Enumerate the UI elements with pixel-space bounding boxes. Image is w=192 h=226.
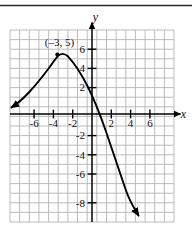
y-tick-label-pos2: 2: [80, 81, 86, 93]
x-tick-label-pos2: 2: [109, 117, 115, 129]
vertex-point-marker: [55, 53, 59, 57]
x-tick-label-neg4: -4: [49, 117, 59, 129]
y-tick-label-neg8: -8: [76, 197, 86, 209]
y-tick-label-neg6: -6: [76, 168, 86, 180]
coordinate-plane-graph: -6 -4 -2 2 4 6 6 4 2 -2 -4 -6 -8 x y (–3…: [0, 0, 192, 226]
vertex-coordinate-label: (–3, 5): [45, 36, 75, 49]
y-tick-label-neg2: -2: [76, 129, 85, 141]
x-tick-label-pos6: 6: [147, 117, 153, 129]
x-tick-label-pos4: 4: [128, 117, 134, 129]
x-tick-label-neg6: -6: [30, 117, 40, 129]
y-tick-label-neg4: -4: [76, 149, 86, 161]
y-tick-label-pos6: 6: [80, 43, 86, 55]
x-axis-label: x: [180, 107, 187, 121]
x-tick-label-neg2: -2: [68, 117, 77, 129]
parabola-figure: -6 -4 -2 2 4 6 6 4 2 -2 -4 -6 -8 x y (–3…: [0, 0, 192, 226]
y-axis-label: y: [92, 10, 99, 24]
